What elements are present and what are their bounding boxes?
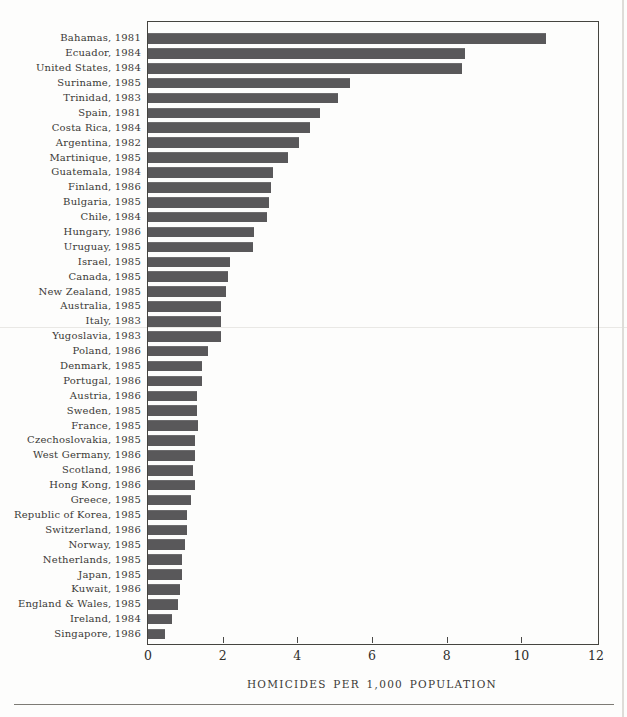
bar [148, 271, 228, 282]
bar-row: New Zealand, 1985 [0, 284, 596, 299]
bar [148, 48, 465, 59]
bar [148, 554, 182, 565]
bar [148, 435, 195, 446]
bar-row: Spain, 1981 [0, 105, 596, 120]
bar [148, 286, 226, 297]
category-label: Hungary, 1986 [0, 227, 148, 237]
bar-track [148, 405, 596, 416]
bar-track [148, 137, 596, 148]
bar-track [148, 614, 596, 625]
category-label: United States, 1984 [0, 63, 148, 73]
category-label: Bulgaria, 1985 [0, 197, 148, 207]
category-label: Martinique, 1985 [0, 153, 148, 163]
bar-track [148, 242, 596, 253]
bar [148, 242, 253, 253]
bar-row: England & Wales, 1985 [0, 597, 596, 612]
bar-row: France, 1985 [0, 418, 596, 433]
bar-track [148, 212, 596, 223]
bar-row: Trinidad, 1983 [0, 91, 596, 106]
bar [148, 137, 299, 148]
bar-row: Norway, 1985 [0, 537, 596, 552]
bar-track [148, 227, 596, 238]
bar-row: Costa Rica, 1984 [0, 120, 596, 135]
bar-row: Ireland, 1984 [0, 612, 596, 627]
category-label: Portugal, 1986 [0, 376, 148, 386]
tick-label: 8 [443, 650, 451, 663]
category-label: France, 1985 [0, 421, 148, 431]
page-edge-shadow [622, 0, 624, 717]
category-label: Finland, 1986 [0, 182, 148, 192]
bar-track [148, 167, 596, 178]
bar-track [148, 331, 596, 342]
category-label: Canada, 1985 [0, 272, 148, 282]
bar-track [148, 629, 596, 640]
bar [148, 465, 193, 476]
bar [148, 197, 269, 208]
bar [148, 599, 178, 610]
bar-row: Greece, 1985 [0, 493, 596, 508]
category-label: Netherlands, 1985 [0, 555, 148, 565]
bar-track [148, 93, 596, 104]
page-rule [14, 704, 614, 705]
bar [148, 316, 221, 327]
bar-row: Poland, 1986 [0, 344, 596, 359]
bar-row: Guatemala, 1984 [0, 165, 596, 180]
bar [148, 301, 221, 312]
bar-rows: Bahamas, 1981Ecuador, 1984United States,… [0, 22, 596, 642]
bar-track [148, 361, 596, 372]
category-label: Denmark, 1985 [0, 361, 148, 371]
category-label: Switzerland, 1986 [0, 525, 148, 535]
category-label: Norway, 1985 [0, 540, 148, 550]
bar-track [148, 197, 596, 208]
bar-track [148, 346, 596, 357]
category-label: Scotland, 1986 [0, 465, 148, 475]
bar [148, 510, 187, 521]
category-label: Bahamas, 1981 [0, 33, 148, 43]
bar-row: Hong Kong, 1986 [0, 478, 596, 493]
bar-row: Kuwait, 1986 [0, 582, 596, 597]
bar-row: Finland, 1986 [0, 180, 596, 195]
bar-track [148, 465, 596, 476]
bar-track [148, 301, 596, 312]
category-label: Hong Kong, 1986 [0, 480, 148, 490]
category-label: England & Wales, 1985 [0, 599, 148, 609]
bar-track [148, 525, 596, 536]
category-label: Australia, 1985 [0, 301, 148, 311]
category-label: Spain, 1981 [0, 108, 148, 118]
bar [148, 93, 338, 104]
bar-row: Argentina, 1982 [0, 135, 596, 150]
bar [148, 405, 197, 416]
category-label: New Zealand, 1985 [0, 287, 148, 297]
bar-track [148, 286, 596, 297]
category-label: West Germany, 1986 [0, 450, 148, 460]
bar [148, 212, 267, 223]
bar [148, 480, 195, 491]
tick-label: 10 [513, 650, 529, 663]
bar-row: Uruguay, 1985 [0, 239, 596, 254]
bar [148, 108, 320, 119]
category-label: Guatemala, 1984 [0, 167, 148, 177]
bar-track [148, 78, 596, 89]
bar-track [148, 33, 596, 44]
bar-row: Bahamas, 1981 [0, 31, 596, 46]
bar [148, 361, 202, 372]
bar [148, 182, 271, 193]
category-label: Japan, 1985 [0, 570, 148, 580]
bar-track [148, 435, 596, 446]
category-label: Uruguay, 1985 [0, 242, 148, 252]
bar [148, 346, 208, 357]
bar-track [148, 257, 596, 268]
bar-row: Republic of Korea, 1985 [0, 508, 596, 523]
bar-row: Suriname, 1985 [0, 76, 596, 91]
bar-track [148, 63, 596, 74]
bar [148, 122, 310, 133]
category-label: Ireland, 1984 [0, 614, 148, 624]
bar-track [148, 376, 596, 387]
x-axis-tick-labels: 024681012 [148, 650, 596, 666]
scanned-figure-page: Bahamas, 1981Ecuador, 1984United States,… [0, 0, 627, 717]
bar-track [148, 122, 596, 133]
bar-row: Hungary, 1986 [0, 225, 596, 240]
bar-track [148, 420, 596, 431]
bar [148, 450, 195, 461]
bar-track [148, 554, 596, 565]
